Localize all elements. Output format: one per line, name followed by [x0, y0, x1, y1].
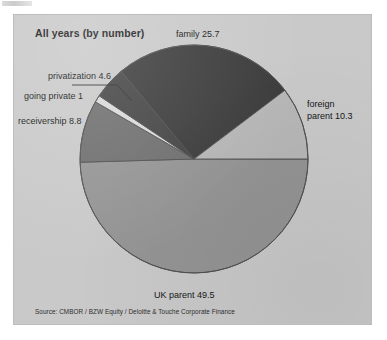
pie-slice-uk-parent[interactable]	[80, 159, 308, 273]
pie-chart-graphic	[14, 15, 373, 326]
source-note: Source: CMBOR / BZW Equity / Deloitte & …	[35, 308, 235, 315]
chart-panel: All years (by number) family 25.7 foreig…	[13, 14, 372, 325]
chart-title: All years (by number)	[35, 27, 144, 39]
scan-artifact	[2, 1, 32, 6]
pie-label-going-private: going private 1	[24, 91, 83, 103]
pie-label-foreign-parent-line1: foreign	[307, 99, 335, 109]
pie-label-foreign-parent-line2: parent 10.3	[307, 111, 353, 121]
pie-label-privatization: privatization 4.6	[48, 71, 111, 83]
pie-label-receivership: receivership 8.8	[18, 116, 82, 128]
pie-label-foreign-parent: foreign parent 10.3	[307, 99, 353, 122]
pie-label-uk-parent: UK parent 49.5	[154, 290, 215, 302]
pie-label-family: family 25.7	[176, 29, 220, 41]
